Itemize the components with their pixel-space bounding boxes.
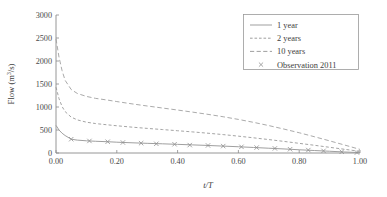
x-tick-label: 0.60 <box>231 157 245 166</box>
x-tick-label: 0.40 <box>170 157 184 166</box>
x-tick-label: 0.00 <box>49 157 63 166</box>
x-tick-label: 0.20 <box>110 157 124 166</box>
x-tick-label: 0.80 <box>292 157 306 166</box>
y-tick-label: 2000 <box>36 57 52 66</box>
y-tick-label: 500 <box>40 126 52 135</box>
y-tick-label: 3000 <box>36 11 52 20</box>
y-axis-title-prefix: Flow (m <box>6 75 16 105</box>
y-tick-label: 1000 <box>36 103 52 112</box>
legend-label: 2 years <box>277 34 301 43</box>
y-tick-label: 2500 <box>36 34 52 43</box>
y-tick-label: 1500 <box>36 80 52 89</box>
legend-label: 10 years <box>277 47 305 56</box>
series-line-1-year <box>56 125 360 152</box>
legend-label: Observation 2011 <box>277 61 336 70</box>
x-axis-tick-labels: 0.000.200.400.600.801.00 <box>49 157 367 166</box>
x-tick-label: 1.00 <box>353 157 367 166</box>
chart-figure: 050010001500200025003000 0.000.200.400.6… <box>0 0 387 197</box>
svg-text:Flow (m3/s): Flow (m3/s) <box>6 63 16 104</box>
legend: 1 year2 years10 yearsObservation 2011 <box>244 15 359 70</box>
x-axis-title: t/T <box>203 180 214 190</box>
chart-svg: 050010001500200025003000 0.000.200.400.6… <box>0 0 387 197</box>
y-axis-title: Flow (m3/s) <box>6 63 16 104</box>
y-axis-tick-labels: 050010001500200025003000 <box>36 11 52 158</box>
y-axis-title-suffix: /s) <box>6 63 16 72</box>
legend-label: 1 year <box>277 21 298 30</box>
